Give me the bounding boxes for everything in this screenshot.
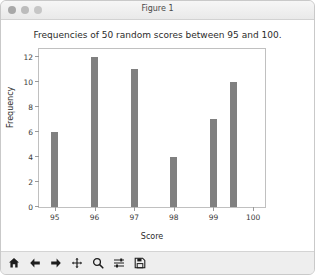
x-axis-tick-label: 97: [129, 213, 139, 222]
bar: [230, 82, 237, 207]
pan-move-icon[interactable]: [67, 254, 87, 273]
home-icon[interactable]: [4, 254, 24, 273]
y-axis-tick-label: 2: [28, 177, 33, 186]
x-axis-tick: [55, 207, 56, 211]
x-axis-tick: [174, 207, 175, 211]
y-axis-tick: [35, 131, 39, 132]
bar: [51, 132, 58, 207]
y-axis-tick: [35, 206, 39, 207]
window-title: Figure 1: [1, 4, 314, 13]
save-floppy-icon[interactable]: [130, 254, 150, 273]
x-axis-tick-label: 99: [209, 213, 219, 222]
y-axis-tick: [35, 81, 39, 82]
y-axis-tick: [35, 56, 39, 57]
x-axis-tick-label: 98: [169, 213, 179, 222]
x-axis-tick-label: 100: [246, 213, 260, 222]
x-axis-tick: [213, 207, 214, 211]
bar: [91, 57, 98, 207]
bar: [210, 119, 217, 207]
window-titlebar: Figure 1: [1, 1, 314, 20]
bar: [131, 69, 138, 207]
x-axis-label: Score: [38, 232, 266, 241]
y-axis-tick: [35, 181, 39, 182]
bar: [170, 157, 177, 207]
y-axis-tick-label: 6: [28, 127, 33, 136]
bar-series: [39, 49, 265, 207]
y-axis-tick-label: 8: [28, 102, 33, 111]
y-axis-tick: [35, 156, 39, 157]
configure-subplots-icon[interactable]: [109, 254, 129, 273]
zoom-magnifier-icon[interactable]: [88, 254, 108, 273]
y-axis-tick-label: 0: [28, 203, 33, 212]
y-axis-tick-label: 10: [23, 77, 33, 86]
chart-title: Frequencies of 50 random scores between …: [1, 30, 314, 40]
x-axis-tick: [134, 207, 135, 211]
figure-window: Figure 1 Frequencies of 50 random scores…: [0, 0, 315, 275]
forward-arrow-icon[interactable]: [46, 254, 66, 273]
y-axis-tick: [35, 106, 39, 107]
x-axis-tick-label: 96: [90, 213, 100, 222]
back-arrow-icon[interactable]: [25, 254, 45, 273]
matplotlib-toolbar: [1, 251, 314, 274]
x-axis-tick-label: 95: [50, 213, 60, 222]
x-axis-tick: [253, 207, 254, 211]
x-axis-tick: [95, 207, 96, 211]
figure-canvas: Frequencies of 50 random scores between …: [1, 20, 314, 253]
y-axis-label: Frequency: [6, 87, 15, 128]
y-axis-tick-label: 12: [23, 52, 33, 61]
y-axis-tick-label: 4: [28, 152, 33, 161]
plot-axes: 0246810129596979899100: [38, 48, 266, 208]
